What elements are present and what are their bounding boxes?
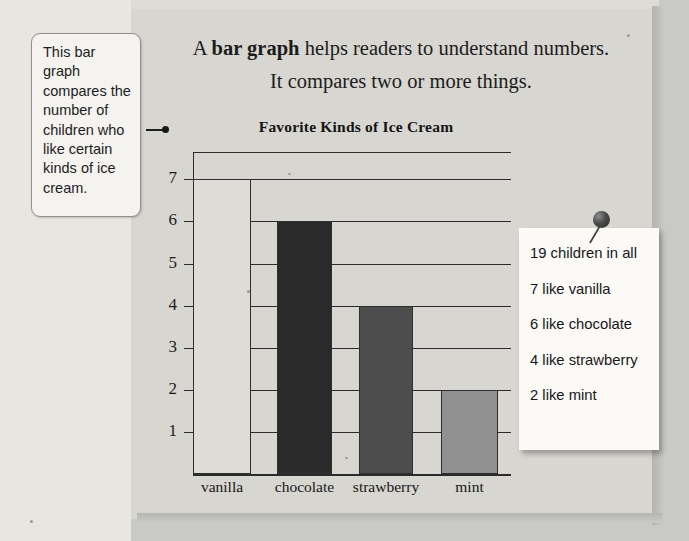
y-tick-label: 2 [155, 379, 177, 399]
arrow-pointer-icon [146, 129, 163, 131]
scan-speck [30, 520, 33, 523]
page-shadow-bottom [137, 513, 662, 523]
y-tick-label: 7 [155, 168, 177, 188]
category-label-chocolate: chocolate [263, 478, 346, 496]
scan-speck [345, 457, 348, 459]
note-line-4: 2 like mint [530, 387, 654, 403]
note-line-0: 19 children in all [530, 245, 654, 261]
scan-speck [627, 34, 630, 37]
category-label-vanilla: vanilla [179, 478, 265, 496]
chart-x-axis [193, 474, 511, 476]
chart-bar-vanilla [193, 179, 251, 474]
y-tick-mark [184, 306, 193, 307]
chart-bar-mint [441, 390, 498, 474]
y-tick-label: 4 [155, 295, 177, 315]
category-label-mint: mint [427, 478, 512, 496]
chart-bars [193, 152, 511, 474]
category-label-strawberry: strawberry [345, 478, 427, 496]
chart-title: Favorite Kinds of Ice Cream [196, 118, 516, 136]
intro-paragraph: A bar graph helps readers to understand … [186, 32, 616, 98]
y-tick-mark [184, 264, 193, 265]
page-top-edge [131, 0, 659, 9]
y-tick-mark [184, 221, 193, 222]
arrow-pointer-dot-icon [162, 126, 169, 133]
callout-left-text: This bar graph compares the number of ch… [43, 43, 135, 198]
note-line-3: 4 like strawberry [530, 352, 654, 368]
note-right: 19 children in all7 like vanilla6 like c… [519, 228, 659, 450]
scan-speck [247, 290, 250, 293]
y-tick-label: 6 [155, 210, 177, 230]
y-tick-mark [184, 432, 193, 433]
y-tick-mark [184, 390, 193, 391]
note-right-lines: 19 children in all7 like vanilla6 like c… [530, 245, 654, 423]
chart-bar-strawberry [359, 306, 413, 474]
y-tick-label: 3 [155, 337, 177, 357]
chart-bar-chocolate [277, 221, 332, 474]
pushpin-icon [593, 211, 610, 228]
scan-speck [487, 398, 489, 400]
note-line-1: 7 like vanilla [530, 281, 654, 297]
intro-text-bold: bar graph [212, 37, 300, 59]
y-tick-mark [184, 179, 193, 180]
intro-text-prefix: A [193, 37, 212, 59]
scan-speck [288, 173, 291, 175]
callout-left: This bar graph compares the number of ch… [31, 33, 141, 217]
y-tick-label: 5 [155, 253, 177, 273]
intro-text-rest: helps readers to understand numbers. It … [270, 37, 609, 92]
note-line-2: 6 like chocolate [530, 316, 654, 332]
y-tick-label: 1 [155, 421, 177, 441]
y-tick-mark [184, 348, 193, 349]
